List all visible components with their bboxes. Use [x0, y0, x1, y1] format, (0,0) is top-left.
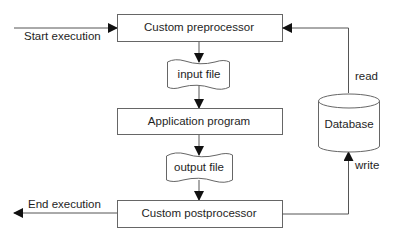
input-file-label: input file — [178, 69, 221, 81]
preprocessor-label: Custom preprocessor — [144, 22, 254, 34]
postprocessor-label: Custom postprocessor — [141, 208, 256, 220]
application-label: Application program — [148, 116, 250, 128]
write-label: write — [355, 160, 379, 172]
write-arrow — [282, 152, 349, 214]
output-file-label: output file — [174, 162, 224, 174]
read-arrow — [283, 28, 349, 93]
start-execution-label: Start execution — [24, 31, 101, 43]
database-label: Database — [324, 119, 373, 131]
end-execution-label: End execution — [28, 199, 101, 211]
read-label: read — [355, 71, 378, 83]
